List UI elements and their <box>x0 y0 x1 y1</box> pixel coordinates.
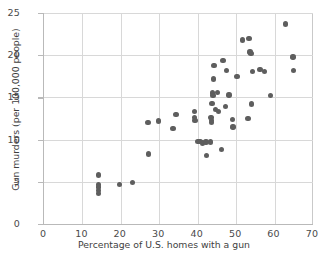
scatter-point <box>192 118 197 123</box>
y-tick-mark <box>38 55 43 56</box>
scatter-point <box>216 109 221 114</box>
scatter-point <box>290 54 295 59</box>
scatter-point <box>246 36 251 41</box>
scatter-point <box>248 51 253 56</box>
y-tick-mark <box>38 13 43 14</box>
scatter-plot-figure: 0510152025 010203040506070 Percentage of… <box>0 0 328 254</box>
scatter-point <box>208 139 213 144</box>
plot-area <box>43 13 313 225</box>
scatter-point <box>170 126 175 131</box>
scatter-point <box>146 151 151 156</box>
scatter-point <box>230 117 235 122</box>
scatter-point <box>96 172 101 177</box>
x-tick-label: 60 <box>254 228 294 239</box>
scatter-point <box>130 180 135 185</box>
y-tick-mark <box>38 224 43 225</box>
scatter-point <box>96 191 101 196</box>
scatter-point <box>211 76 216 81</box>
scatter-point <box>283 21 288 26</box>
scatter-point <box>211 63 216 68</box>
gridline-vertical <box>275 13 276 224</box>
scatter-point <box>245 116 250 121</box>
scatter-point <box>209 101 214 106</box>
gridline-vertical <box>198 13 199 224</box>
scatter-point <box>156 118 161 123</box>
scatter-point <box>145 120 150 125</box>
x-tick-label: 30 <box>138 228 178 239</box>
chart-title <box>176 0 216 3</box>
x-tick-label: 70 <box>292 228 328 239</box>
gridline-vertical <box>121 13 122 224</box>
scatter-point <box>220 58 225 63</box>
scatter-point <box>215 90 220 95</box>
gridline-horizontal <box>44 140 313 141</box>
scatter-point <box>234 74 239 79</box>
scatter-point <box>230 124 235 129</box>
scatter-point <box>209 120 214 125</box>
x-tick-label: 50 <box>215 228 255 239</box>
x-axis-label: Percentage of U.S. homes with a gun <box>0 239 328 250</box>
x-tick-label: 40 <box>177 228 217 239</box>
x-tick-label: 0 <box>23 228 63 239</box>
axis-right-spine <box>312 13 313 224</box>
scatter-point <box>291 68 296 73</box>
gridline-horizontal <box>44 182 313 183</box>
scatter-point <box>219 147 224 152</box>
y-tick-mark <box>38 140 43 141</box>
scatter-point <box>204 153 209 158</box>
y-tick-label: 0 <box>0 218 20 229</box>
gridline-horizontal <box>44 55 313 56</box>
scatter-point <box>250 69 255 74</box>
scatter-point <box>249 101 254 106</box>
y-tick-mark <box>38 182 43 183</box>
scatter-point <box>223 104 228 109</box>
scatter-point <box>240 37 245 42</box>
scatter-point <box>117 182 122 187</box>
scatter-point <box>192 109 197 114</box>
scatter-point <box>224 68 229 73</box>
y-axis-label: Gun murders (per 100,000 people) <box>10 5 21 215</box>
scatter-point <box>262 69 267 74</box>
scatter-point <box>226 92 231 97</box>
gridline-horizontal <box>44 97 313 98</box>
gridline-vertical <box>236 13 237 224</box>
gridline-horizontal <box>44 13 313 14</box>
y-tick-mark <box>38 97 43 98</box>
x-tick-label: 20 <box>100 228 140 239</box>
scatter-point <box>173 112 178 117</box>
gridline-vertical <box>82 13 83 224</box>
x-tick-label: 10 <box>61 228 101 239</box>
